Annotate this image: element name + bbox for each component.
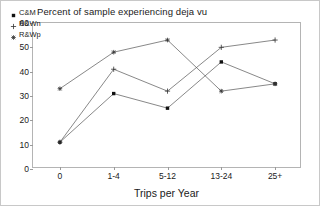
data-point-filled-square-icon xyxy=(12,14,15,17)
x-tick-mark xyxy=(221,167,222,170)
y-tick-label: 50 xyxy=(20,43,29,52)
y-tick-label: 20 xyxy=(20,116,29,125)
x-tick-label: 25+ xyxy=(268,172,282,181)
data-point-plus-icon xyxy=(273,37,278,42)
y-tick-mark xyxy=(30,145,33,146)
y-tick-mark xyxy=(30,96,33,97)
data-point-filled-square-icon xyxy=(220,60,223,63)
legend-item-label: R&Wn xyxy=(19,20,41,28)
legend-star-icon xyxy=(8,29,19,40)
x-tick-label: 5-12 xyxy=(159,172,176,181)
data-point-star-icon xyxy=(58,86,63,91)
legend-item-label: C&M xyxy=(19,9,36,17)
data-point-filled-square-icon xyxy=(166,106,169,109)
y-tick-label: 0 xyxy=(24,165,29,174)
chart-figure: Percent of sample experiencing deja vu 0… xyxy=(0,0,320,206)
legend-item-label: R&Wp xyxy=(19,31,41,39)
x-tick-mark xyxy=(168,167,169,170)
series-line-c-m xyxy=(60,62,275,142)
x-tick-mark xyxy=(275,167,276,170)
x-axis-title: Trips per Year xyxy=(32,187,301,199)
data-point-star-icon xyxy=(165,38,170,43)
legend-item-c-m[interactable]: C&M xyxy=(8,7,56,18)
data-point-star-icon xyxy=(219,89,224,94)
x-tick-mark xyxy=(60,167,61,170)
data-point-star-icon xyxy=(11,35,16,40)
y-tick-mark xyxy=(30,47,33,48)
series-line-r-wp xyxy=(60,40,275,91)
x-tick-label: 1-4 xyxy=(108,172,120,181)
legend-plus-icon xyxy=(8,18,19,29)
y-tick-mark xyxy=(30,169,33,170)
legend-filled-square-icon xyxy=(8,7,19,18)
chart-legend: C&MR&WnR&Wp xyxy=(6,5,58,42)
legend-item-r-wp[interactable]: R&Wp xyxy=(8,29,56,40)
legend-item-r-wn[interactable]: R&Wn xyxy=(8,18,56,29)
data-point-star-icon xyxy=(111,50,116,55)
y-tick-label: 40 xyxy=(20,67,29,76)
x-tick-mark xyxy=(114,167,115,170)
data-point-plus-icon xyxy=(111,67,116,72)
plot-svg xyxy=(33,23,302,169)
plot-area: 0102030405060 01-45-1213-2425+ xyxy=(32,22,301,168)
y-tick-label: 10 xyxy=(20,140,29,149)
x-tick-label: 13-24 xyxy=(210,172,232,181)
chart-title: Percent of sample experiencing deja vu xyxy=(37,6,207,17)
y-tick-mark xyxy=(30,120,33,121)
data-point-star-icon xyxy=(273,82,278,87)
data-point-filled-square-icon xyxy=(112,92,115,95)
y-tick-mark xyxy=(30,72,33,73)
x-tick-label: 0 xyxy=(58,172,63,181)
y-tick-label: 30 xyxy=(20,92,29,101)
